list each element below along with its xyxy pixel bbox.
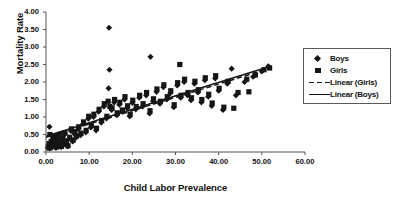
data-point-girls <box>151 96 156 101</box>
legend-key <box>308 52 330 64</box>
legend-item-girls: Girls <box>304 64 390 76</box>
legend-label: Girls <box>330 66 347 75</box>
data-point-girls <box>189 95 194 100</box>
data-point-girls <box>86 114 91 119</box>
data-point-girls <box>112 97 117 102</box>
dashed-line-icon <box>309 82 330 83</box>
data-point-boys <box>46 124 52 130</box>
x-tick-label: 40.00 <box>199 158 239 166</box>
data-point-girls <box>253 72 258 77</box>
legend-label: Linear (Girls) <box>330 78 377 87</box>
data-point-girls <box>106 99 111 104</box>
data-point-girls <box>196 87 201 92</box>
scatter-chart-figure: Mortality Rate Child Labor Prevalence 0.… <box>0 0 415 206</box>
data-point-girls <box>246 89 251 94</box>
y-tick-label: 1.00 <box>9 113 39 121</box>
legend-item-boys: Boys <box>304 52 390 64</box>
data-point-girls <box>158 99 163 104</box>
data-point-girls <box>96 107 101 112</box>
data-point-girls <box>168 88 173 93</box>
markers-group <box>45 25 273 152</box>
legend-label: Boys <box>330 54 349 63</box>
data-point-girls <box>84 128 89 133</box>
data-point-girls <box>182 77 187 82</box>
data-point-girls <box>177 62 182 67</box>
solid-line-icon <box>309 94 330 95</box>
data-point-girls <box>125 103 130 108</box>
x-tick-label: 10.00 <box>69 158 109 166</box>
data-point-girls <box>109 105 114 110</box>
data-point-girls <box>172 102 177 107</box>
data-point-girls <box>104 114 109 119</box>
data-point-girls <box>137 93 142 98</box>
data-point-girls <box>206 92 211 97</box>
data-point-boys <box>105 85 111 91</box>
data-point-girls <box>226 79 231 84</box>
data-point-girls <box>161 82 166 87</box>
data-point-girls <box>185 90 190 95</box>
data-point-girls <box>117 100 122 105</box>
data-point-girls <box>62 130 67 135</box>
diamond-marker-icon <box>314 54 321 61</box>
data-point-girls <box>128 112 133 117</box>
y-tick-label: 3.50 <box>9 26 39 34</box>
legend-label: Linear (Boys) <box>330 90 379 99</box>
data-point-girls <box>78 131 83 136</box>
data-point-girls <box>165 94 170 99</box>
data-point-girls <box>203 75 208 80</box>
y-tick-label: 1.50 <box>9 96 39 104</box>
data-point-girls <box>216 86 221 91</box>
data-point-boys <box>106 25 112 31</box>
legend-item-linear-girls: Linear (Girls) <box>304 76 390 88</box>
y-tick-label: 0.00 <box>9 148 39 156</box>
data-point-girls <box>99 118 104 123</box>
y-tick-label: 2.50 <box>9 61 39 69</box>
data-point-girls <box>261 67 266 72</box>
y-tick-label: 0.50 <box>9 131 39 139</box>
data-point-girls <box>244 77 249 82</box>
data-point-girls <box>267 65 272 70</box>
x-axis-title: Child Labor Prevalence <box>46 182 305 193</box>
data-point-girls <box>120 107 125 112</box>
data-point-girls <box>81 119 86 124</box>
data-point-girls <box>179 93 184 98</box>
data-point-boys <box>229 66 235 72</box>
data-point-girls <box>199 97 204 102</box>
legend-key <box>308 88 330 100</box>
x-tick-label: 0.00 <box>26 158 66 166</box>
square-marker-icon <box>315 68 321 74</box>
x-tick-label: 30.00 <box>156 158 196 166</box>
data-point-girls <box>192 79 197 84</box>
data-point-girls <box>175 80 180 85</box>
data-point-girls <box>147 108 152 113</box>
data-point-girls <box>115 110 120 115</box>
data-point-girls <box>134 104 139 109</box>
data-point-girls <box>210 100 215 105</box>
data-point-girls <box>213 73 218 78</box>
data-point-girls <box>144 90 149 95</box>
data-point-boys <box>147 54 153 60</box>
chart-legend: BoysGirlsLinear (Girls)Linear (Boys) <box>303 48 391 104</box>
data-point-girls <box>89 123 94 128</box>
caption-sliver <box>0 199 415 206</box>
data-point-girls <box>221 105 226 110</box>
data-point-girls <box>65 143 70 148</box>
legend-key <box>308 76 330 88</box>
data-point-girls <box>91 112 96 117</box>
y-tick-label: 2.00 <box>9 78 39 86</box>
legend-key <box>308 64 330 76</box>
x-tick-label: 60.00 <box>285 158 325 166</box>
data-point-boys <box>106 67 112 73</box>
data-point-girls <box>235 90 240 95</box>
x-tick-label: 20.00 <box>112 158 152 166</box>
x-tick-label: 50.00 <box>242 158 282 166</box>
data-point-girls <box>231 106 236 111</box>
data-point-girls <box>76 124 81 129</box>
data-point-girls <box>94 126 99 131</box>
legend-item-linear-boys: Linear (Boys) <box>304 88 390 100</box>
data-point-girls <box>47 132 52 137</box>
data-point-girls <box>130 98 135 103</box>
data-point-girls <box>122 94 127 99</box>
y-tick-label: 4.00 <box>9 8 39 16</box>
data-point-girls <box>141 101 146 106</box>
